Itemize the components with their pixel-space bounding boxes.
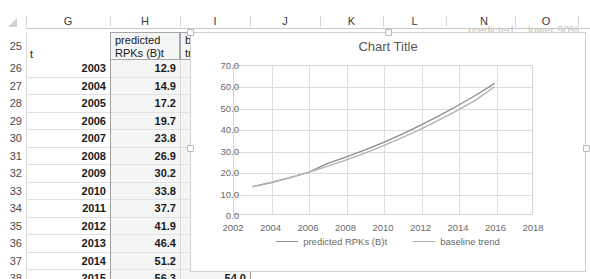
y-axis-tick-label: 30.0 bbox=[199, 147, 239, 156]
cell-H31[interactable]: 26.9 bbox=[110, 148, 180, 166]
column-header-K-label: K bbox=[320, 14, 383, 29]
cell-H34[interactable]: 37.7 bbox=[110, 200, 180, 218]
row-header-30[interactable]: 30 bbox=[0, 130, 26, 148]
column-divider[interactable] bbox=[180, 16, 181, 27]
row-header-29[interactable]: 29 bbox=[0, 113, 26, 131]
grid-column-line bbox=[180, 32, 181, 279]
cell-H36[interactable]: 46.4 bbox=[110, 235, 180, 253]
chart-plot-area[interactable] bbox=[233, 65, 533, 215]
legend-swatch-icon bbox=[276, 241, 298, 242]
row-header-38[interactable]: 38 bbox=[0, 270, 26, 279]
column-divider[interactable] bbox=[383, 16, 384, 27]
embedded-chart[interactable]: Chart Title 0.010.020.030.040.050.060.07… bbox=[190, 32, 586, 272]
chart-resize-handle-top-center[interactable] bbox=[385, 29, 392, 36]
row-header-33[interactable]: 33 bbox=[0, 183, 26, 201]
cell-G27[interactable]: 2004 bbox=[26, 78, 110, 96]
cell-G28[interactable]: 2005 bbox=[26, 95, 110, 113]
cell-H32[interactable]: 30.2 bbox=[110, 165, 180, 183]
row-header-27[interactable]: 27 bbox=[0, 78, 26, 96]
column-header-G-label: G bbox=[26, 14, 110, 29]
y-axis-tick-label: 0.0 bbox=[199, 211, 239, 220]
legend-item-0[interactable]: predicted RPKs (B)t bbox=[276, 236, 387, 247]
column-header-L[interactable]: L bbox=[383, 14, 446, 29]
cell-G32[interactable]: 2009 bbox=[26, 165, 110, 183]
chart-resize-handle-middle-right[interactable] bbox=[583, 145, 590, 152]
cell-H30[interactable]: 23.8 bbox=[110, 130, 180, 148]
column-header-I[interactable]: I bbox=[180, 14, 250, 29]
column-header-J-label: J bbox=[250, 14, 320, 29]
cell-H28[interactable]: 17.2 bbox=[110, 95, 180, 113]
cell-H25[interactable]: predicted RPKs (B)t bbox=[110, 32, 180, 60]
chart-legend[interactable]: predicted RPKs (B)t baseline trend bbox=[191, 236, 585, 247]
row-header-28[interactable]: 28 bbox=[0, 95, 26, 113]
grid-column-line bbox=[110, 32, 111, 279]
column-header-L-label: L bbox=[383, 14, 446, 29]
row-header-31[interactable]: 31 bbox=[0, 148, 26, 166]
y-axis-tick-label: 10.0 bbox=[199, 190, 239, 199]
cell-H25-text: predicted RPKs (B)t bbox=[115, 34, 164, 59]
cell-G36[interactable]: 2013 bbox=[26, 235, 110, 253]
cell-G25-text: t bbox=[30, 48, 33, 60]
chart-title[interactable]: Chart Title bbox=[191, 39, 585, 54]
cell-G33[interactable]: 2010 bbox=[26, 183, 110, 201]
cell-G37[interactable]: 2014 bbox=[26, 253, 110, 271]
spreadsheet-screenshot: G H I J K L M N O predicted lower 90% 25… bbox=[0, 0, 590, 279]
y-axis-tick-label: 60.0 bbox=[199, 82, 239, 91]
chart-line-series-0[interactable] bbox=[253, 83, 495, 186]
column-divider[interactable] bbox=[320, 16, 321, 27]
column-header-G[interactable]: G bbox=[26, 14, 110, 29]
cell-H35[interactable]: 41.9 bbox=[110, 218, 180, 236]
row-header-26[interactable]: 26 bbox=[0, 60, 26, 78]
chart-resize-handle-middle-left[interactable] bbox=[187, 145, 194, 152]
row-header-25[interactable]: 25 bbox=[0, 32, 26, 60]
row-header-37[interactable]: 37 bbox=[0, 253, 26, 271]
cell-G35[interactable]: 2012 bbox=[26, 218, 110, 236]
column-header-J[interactable]: J bbox=[250, 14, 320, 29]
column-divider[interactable] bbox=[250, 16, 251, 27]
cell-G30[interactable]: 2007 bbox=[26, 130, 110, 148]
legend-label-0: predicted RPKs (B)t bbox=[303, 236, 387, 247]
chart-series-layer bbox=[234, 66, 532, 214]
column-header-I-label: I bbox=[180, 14, 250, 29]
cell-G31[interactable]: 2008 bbox=[26, 148, 110, 166]
chart-line-series-1[interactable] bbox=[253, 87, 495, 187]
legend-label-1: baseline trend bbox=[440, 236, 500, 247]
cell-G38[interactable]: 2015 bbox=[26, 270, 110, 279]
cell-H27[interactable]: 14.9 bbox=[110, 78, 180, 96]
y-axis-tick-label: 70.0 bbox=[199, 61, 239, 70]
y-axis-tick-label: 40.0 bbox=[199, 125, 239, 134]
cell-H37[interactable]: 51.2 bbox=[110, 253, 180, 271]
column-divider[interactable] bbox=[26, 16, 27, 27]
row-header-34[interactable]: 34 bbox=[0, 200, 26, 218]
column-header-H-label: H bbox=[110, 14, 180, 29]
column-divider[interactable] bbox=[446, 16, 447, 27]
cell-H29[interactable]: 19.7 bbox=[110, 113, 180, 131]
legend-swatch-icon bbox=[413, 241, 435, 242]
cell-H33[interactable]: 33.8 bbox=[110, 183, 180, 201]
y-axis-tick-label: 20.0 bbox=[199, 168, 239, 177]
cell-H26[interactable]: 12.9 bbox=[110, 60, 180, 78]
x-axis-tick-label: 2018 bbox=[511, 223, 555, 232]
cell-G34[interactable]: 2011 bbox=[26, 200, 110, 218]
y-axis-tick-label: 50.0 bbox=[199, 104, 239, 113]
chart-resize-handle-top-left[interactable] bbox=[187, 29, 194, 36]
column-divider[interactable] bbox=[110, 16, 111, 27]
column-header-H[interactable]: H bbox=[110, 14, 180, 29]
cell-H38[interactable]: 56.3 bbox=[110, 270, 180, 279]
column-header-K[interactable]: K bbox=[320, 14, 383, 29]
grid-column-line bbox=[26, 32, 27, 279]
legend-item-1[interactable]: baseline trend bbox=[413, 236, 500, 247]
cell-G29[interactable]: 2006 bbox=[26, 113, 110, 131]
cell-G25[interactable]: t bbox=[26, 46, 110, 64]
row-header-32[interactable]: 32 bbox=[0, 165, 26, 183]
row-header-35[interactable]: 35 bbox=[0, 218, 26, 236]
row-header-36[interactable]: 36 bbox=[0, 235, 26, 253]
